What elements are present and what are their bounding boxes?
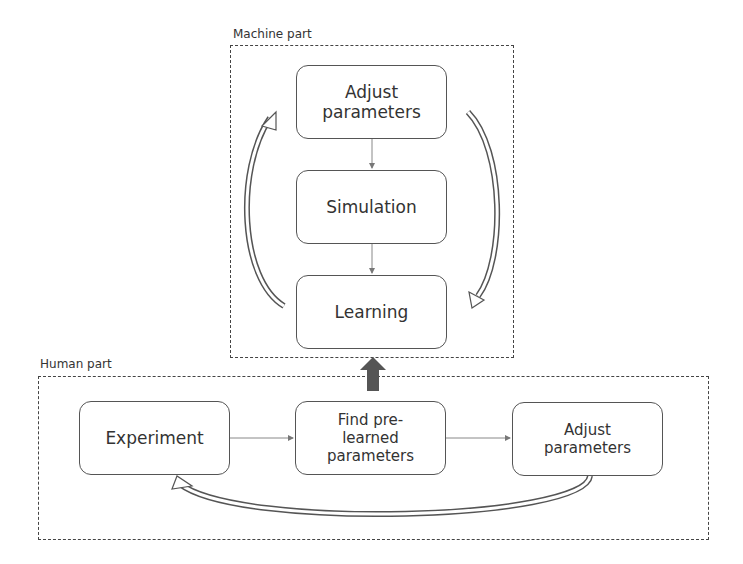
loop-arrow-right (468, 112, 497, 308)
machine-node-learning: Learning (296, 275, 447, 349)
bold-up-arrow (360, 357, 386, 391)
feedback-arrow (172, 476, 590, 514)
machine-node-adjust-parameters: Adjust parameters (296, 65, 447, 139)
loop-arrow-left (247, 112, 284, 306)
human-node-experiment: Experiment (79, 401, 230, 475)
human-node-adjust-parameters: Adjust parameters (512, 402, 663, 476)
machine-node-simulation: Simulation (296, 170, 447, 244)
human-node-find-pre-learned-parameters: Find pre-learned parameters (295, 401, 446, 475)
